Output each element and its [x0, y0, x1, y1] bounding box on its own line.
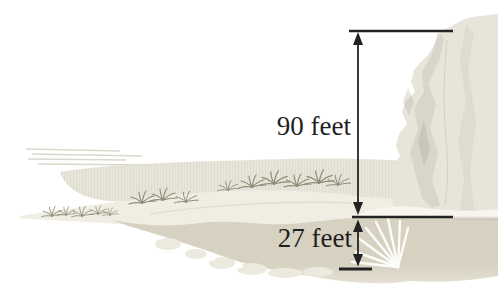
water-depth-label: 27 feet — [278, 223, 353, 253]
cliff-depth-figure: 90 feet 27 feet — [0, 0, 498, 308]
cliff-height-label: 90 feet — [277, 111, 352, 141]
scene-illustration: 90 feet 27 feet — [0, 0, 498, 308]
shoreline-streaks — [26, 149, 150, 165]
